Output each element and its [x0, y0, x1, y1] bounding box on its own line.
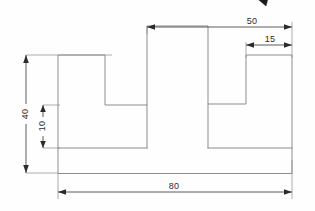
- arrow-10-top: [40, 105, 46, 112]
- arrow-15-left: [246, 42, 254, 47]
- arrow-50-left: [147, 24, 155, 29]
- extension-lines: [26, 22, 292, 199]
- dimension-40: 40: [19, 55, 31, 173]
- dim-label-15: 15: [265, 34, 275, 44]
- arrow-40-top: [23, 55, 29, 63]
- cad-drawing-canvas: 40 10 50 15: [0, 0, 315, 211]
- arrow-15-right: [284, 42, 292, 47]
- dimension-80: 80: [58, 178, 292, 195]
- part-outline-path: [58, 26, 292, 173]
- dimension-50: 50: [147, 13, 292, 30]
- dim-label-50: 50: [247, 16, 257, 26]
- arrow-10-bottom: [40, 141, 46, 148]
- arrow-40-bottom: [23, 165, 29, 173]
- mouse-pointer-icon: [253, 0, 271, 6]
- arrow-50-right: [284, 24, 292, 29]
- arrow-80-right: [284, 189, 292, 194]
- dimension-10: 10: [36, 105, 48, 148]
- dim-label-80: 80: [169, 181, 179, 191]
- dim-label-10: 10: [37, 121, 47, 131]
- technical-drawing-svg: 40 10 50 15: [0, 0, 315, 211]
- dimension-15: 15: [246, 31, 292, 48]
- cursor-arrow-shape: [253, 0, 271, 6]
- dim-label-40: 40: [20, 109, 30, 119]
- arrow-80-left: [58, 189, 66, 194]
